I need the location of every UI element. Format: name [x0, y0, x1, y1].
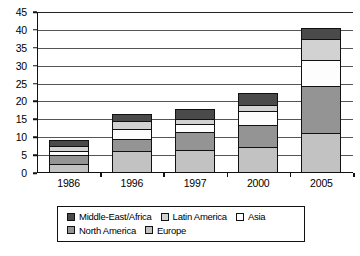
bar-segment[interactable]: [302, 134, 340, 172]
stacked-bar[interactable]: [238, 93, 278, 173]
y-tick-label: 35: [16, 43, 27, 54]
legend-label-north-america: North America: [79, 226, 136, 236]
bar-segment[interactable]: [176, 125, 214, 133]
bar-segment[interactable]: [302, 87, 340, 134]
x-tick-mark: [163, 173, 165, 177]
bar-segment[interactable]: [113, 115, 151, 122]
bar-segment[interactable]: [302, 29, 340, 40]
legend-swatch-middle-east-africa: [67, 213, 75, 221]
legend-label-middle-east-africa: Middle-East/Africa: [79, 212, 152, 222]
bar-segment[interactable]: [50, 156, 88, 165]
y-tick-label: 10: [16, 132, 27, 143]
x-tick-label: 1986: [57, 178, 80, 189]
y-axis: 051015202530354045: [0, 12, 33, 173]
legend-swatch-asia: [236, 213, 244, 221]
legend-item-europe[interactable]: Europe: [145, 226, 186, 236]
legend: Middle-East/Africa Latin America Asia No…: [57, 206, 305, 242]
legend-swatch-latin-america: [161, 213, 169, 221]
y-tick-label: 15: [16, 114, 27, 125]
y-tick-label: 0: [21, 168, 27, 179]
legend-row-2: North America Europe: [67, 226, 295, 236]
y-tick-label: 20: [16, 96, 27, 107]
legend-item-latin-america[interactable]: Latin America: [161, 212, 227, 222]
bar-group: [163, 12, 226, 173]
x-tick-mark: [227, 173, 229, 177]
bar-group: [100, 12, 163, 173]
bar-segment[interactable]: [50, 165, 88, 172]
legend-swatch-europe: [145, 226, 153, 234]
bar-segment[interactable]: [176, 110, 214, 120]
x-tick-mark: [353, 173, 355, 177]
x-tick-label: 1996: [121, 178, 144, 189]
bar-group: [227, 12, 290, 173]
stacked-bar[interactable]: [301, 28, 341, 173]
bar-segment[interactable]: [302, 40, 340, 61]
bar-segment[interactable]: [176, 151, 214, 172]
bar-segment[interactable]: [239, 94, 277, 106]
x-tick-mark: [100, 173, 102, 177]
x-tick-mark: [290, 173, 292, 177]
bars-layer: [37, 12, 353, 173]
legend-label-europe: Europe: [157, 226, 186, 236]
legend-swatch-north-america: [67, 226, 75, 234]
legend-item-north-america[interactable]: North America: [67, 226, 136, 236]
stacked-bar[interactable]: [112, 114, 152, 173]
bar-segment[interactable]: [113, 152, 151, 172]
bar-segment[interactable]: [176, 133, 214, 152]
y-tick-label: 25: [16, 78, 27, 89]
legend-label-latin-america: Latin America: [173, 212, 227, 222]
y-tick-label: 40: [16, 25, 27, 36]
stacked-bar[interactable]: [49, 140, 89, 173]
legend-row-1: Middle-East/Africa Latin America Asia: [67, 212, 295, 222]
y-tick-label: 30: [16, 60, 27, 71]
bar-segment[interactable]: [239, 148, 277, 172]
bar-segment[interactable]: [113, 140, 151, 152]
stacked-bar[interactable]: [175, 109, 215, 173]
bar-segment[interactable]: [113, 122, 151, 130]
y-tick-label: 45: [16, 7, 27, 18]
legend-label-asia: Asia: [248, 212, 265, 222]
x-tick-label: 1997: [184, 178, 207, 189]
bar-segment[interactable]: [113, 130, 151, 140]
bar-group: [37, 12, 100, 173]
x-axis-labels: 19861996199720002005: [37, 178, 353, 192]
y-tick-label: 5: [21, 150, 27, 161]
stacked-bar-chart: 051015202530354045 19861996199720002005 …: [0, 0, 360, 256]
legend-item-middle-east-africa[interactable]: Middle-East/Africa: [67, 212, 152, 222]
legend-item-asia[interactable]: Asia: [236, 212, 265, 222]
x-tick-label: 2005: [310, 178, 333, 189]
x-tick-label: 2000: [247, 178, 270, 189]
bar-segment[interactable]: [239, 112, 277, 126]
bar-segment[interactable]: [239, 126, 277, 148]
bar-group: [290, 12, 353, 173]
bar-segment[interactable]: [302, 61, 340, 87]
